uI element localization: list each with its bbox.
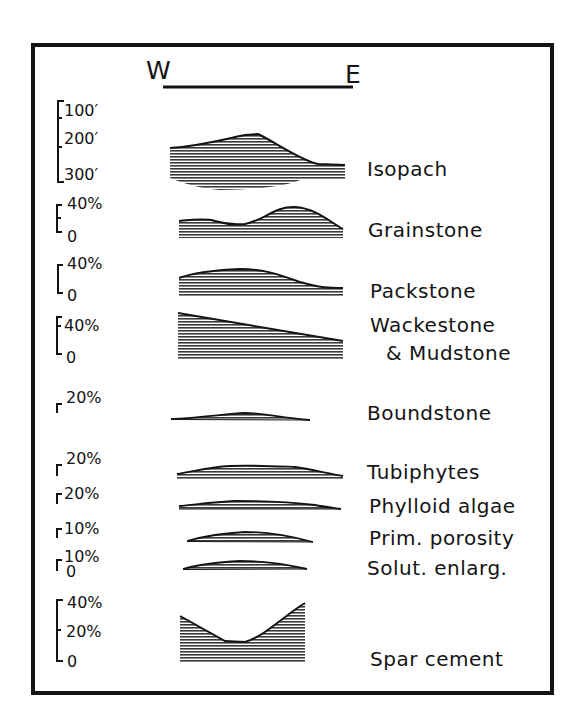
- spar-tick-20: 20%: [66, 624, 102, 640]
- boundstone-tick-max: 20%: [66, 390, 102, 406]
- porosity-tick-max: 10%: [64, 521, 100, 537]
- wackestone-tick-zero: 0: [66, 350, 76, 366]
- packstone-profile: [179, 269, 343, 297]
- label-wackestone: Wackestone: [370, 315, 495, 335]
- label-tubiphytes: Tubiphytes: [367, 462, 480, 482]
- tubiphytes-profile: [177, 466, 343, 480]
- grainstone-tick-zero: 0: [67, 229, 77, 245]
- west-label: W: [146, 58, 171, 83]
- label-boundstone: Boundstone: [367, 403, 491, 423]
- isopach-tick-300: 300′: [64, 167, 98, 183]
- grainstone-tick-max: 40%: [67, 196, 103, 212]
- porosity-profile: [187, 532, 313, 542]
- packstone-tick-max: 40%: [67, 256, 103, 272]
- solution-tick-zero: 0: [66, 564, 76, 580]
- grainstone-profile: [179, 207, 343, 238]
- packstone-tick-zero: 0: [67, 288, 77, 304]
- isopach-tick-100: 100′: [64, 103, 98, 119]
- spar-tick-zero: 0: [67, 654, 77, 670]
- wackestone-profile: [178, 313, 343, 359]
- label-grainstone: Grainstone: [368, 220, 483, 240]
- label-isopach: Isopach: [367, 159, 448, 179]
- tubiphytes-tick-max: 20%: [66, 451, 102, 467]
- label-packstone: Packstone: [370, 281, 476, 301]
- spar-tick-40: 40%: [67, 595, 103, 611]
- phylloid-profile: [179, 501, 341, 509]
- isopach-profile: [170, 134, 345, 190]
- isopach-tick-200: 200′: [64, 131, 98, 147]
- label-spar-cement: Spar cement: [370, 649, 503, 669]
- east-label: E: [345, 62, 361, 87]
- label-solution: Solut. enlarg.: [367, 558, 507, 578]
- label-mudstone: & Mudstone: [386, 343, 511, 363]
- label-phylloid: Phylloid algae: [369, 496, 516, 516]
- label-porosity: Prim. porosity: [369, 528, 514, 548]
- solution-profile: [183, 561, 307, 570]
- wackestone-tick-max: 40%: [64, 318, 100, 334]
- boundstone-profile: [171, 413, 310, 420]
- spar-cement-profile: [180, 603, 305, 663]
- phylloid-tick-max: 20%: [64, 486, 100, 502]
